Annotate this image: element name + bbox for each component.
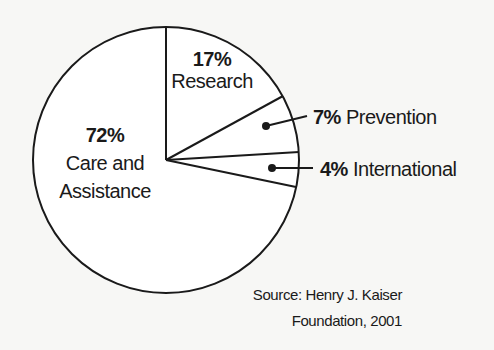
care-pct: 72%: [50, 124, 160, 146]
research-name: Research: [170, 70, 254, 92]
source-line1: Source: Henry J. Kaiser: [240, 282, 402, 308]
research-label: 17% Research: [170, 48, 254, 92]
prevention-pct: 7%: [313, 106, 341, 128]
source-line2: Foundation, 2001: [240, 308, 402, 334]
source-note: Source: Henry J. Kaiser Foundation, 2001: [240, 282, 402, 334]
care-name-line2: Assistance: [50, 180, 160, 202]
international-name: International: [353, 158, 457, 180]
research-pct: 17%: [170, 48, 254, 70]
care-label: 72% Care and Assistance: [50, 124, 160, 202]
care-name-line1: Care and: [50, 152, 160, 174]
international-pct: 4%: [320, 158, 348, 180]
prevention-name: Prevention: [346, 106, 437, 128]
international-label: 4% International: [320, 158, 457, 180]
prevention-label: 7% Prevention: [313, 106, 437, 128]
